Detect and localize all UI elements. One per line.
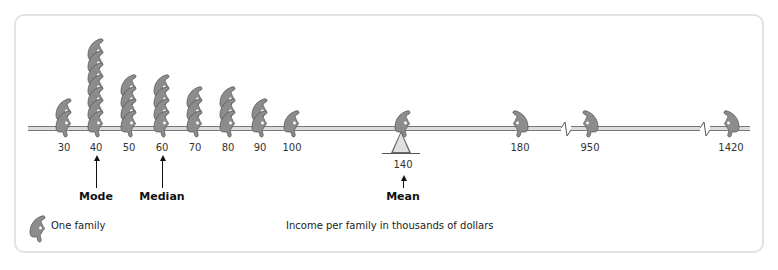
mean-label: Mean bbox=[386, 190, 420, 203]
fulcrum-base bbox=[382, 153, 420, 154]
axis-tick-label: 40 bbox=[90, 142, 103, 153]
axis-tick-label: 950 bbox=[580, 142, 599, 153]
seated-person-icon bbox=[86, 110, 106, 138]
seated-person-icon bbox=[185, 110, 205, 138]
axis-tick-label: 70 bbox=[189, 142, 202, 153]
seated-person-icon bbox=[250, 110, 270, 138]
axis-tick-label: 80 bbox=[222, 142, 235, 153]
mean-value-label: 140 bbox=[393, 159, 412, 170]
legend-label: One family bbox=[51, 220, 105, 231]
axis-break-icon bbox=[700, 120, 710, 138]
axis-tick-label: 60 bbox=[156, 142, 169, 153]
seated-person-icon bbox=[393, 110, 413, 138]
x-axis-title: Income per family in thousands of dollar… bbox=[286, 220, 494, 231]
seated-person-icon bbox=[218, 110, 238, 138]
seated-person-icon bbox=[510, 110, 530, 138]
mean-arrow bbox=[403, 180, 404, 188]
axis-tick-label: 50 bbox=[123, 142, 136, 153]
seated-person-icon bbox=[282, 110, 302, 138]
axis-tick-label: 30 bbox=[58, 142, 71, 153]
axis-tick-label: 90 bbox=[254, 142, 267, 153]
seated-person-icon bbox=[721, 110, 741, 138]
seated-person-icon bbox=[580, 110, 600, 138]
seated-person-icon bbox=[54, 110, 74, 138]
mode-arrow bbox=[96, 160, 97, 188]
axis-tick-label: 100 bbox=[282, 142, 301, 153]
seated-person-icon bbox=[27, 215, 49, 247]
median-label: Median bbox=[139, 190, 184, 203]
axis-tick-label: 180 bbox=[510, 142, 529, 153]
seated-person-icon bbox=[152, 110, 172, 138]
mode-label: Mode bbox=[79, 190, 113, 203]
seated-person-icon bbox=[119, 110, 139, 138]
median-arrow bbox=[162, 160, 163, 188]
axis-tick-label: 1420 bbox=[718, 142, 743, 153]
axis-break-icon bbox=[561, 120, 571, 138]
